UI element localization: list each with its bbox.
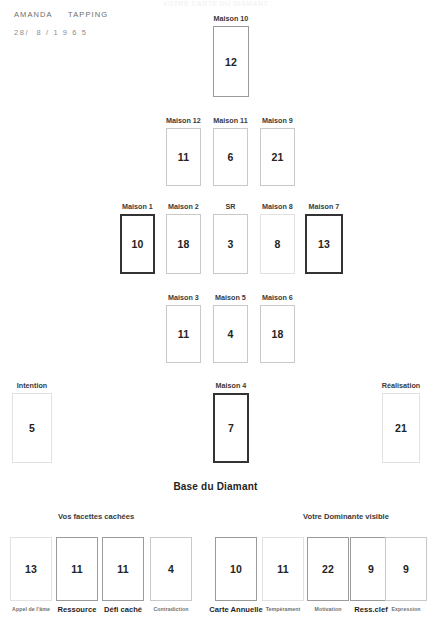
base-box-appel-de-l-ame[interactable]: 13: [10, 537, 52, 601]
card-box-maison-7[interactable]: 13: [305, 214, 343, 274]
card-slot-maison-11[interactable]: Maison 116: [213, 128, 248, 186]
card-slot-maison-4[interactable]: Maison 47: [213, 393, 249, 463]
card-slot-maison-5[interactable]: Maison 54: [213, 305, 248, 363]
card-box-maison-6[interactable]: 18: [260, 305, 295, 363]
base-slot-temperament[interactable]: 11Tempérament: [262, 537, 304, 601]
card-box-sr[interactable]: 3: [213, 214, 248, 274]
document-title: VOTRE CARTE DU DIAMANT: [0, 0, 431, 8]
card-label-maison-1: Maison 1: [122, 202, 153, 211]
card-label-maison-6: Maison 6: [262, 293, 293, 302]
card-value-maison-9: 21: [271, 151, 283, 163]
hidden-facets-heading: Vos facettes cachées: [58, 512, 134, 521]
card-value-maison-10: 12: [225, 56, 237, 68]
base-box-expression[interactable]: 9: [385, 537, 427, 601]
card-label-maison-3: Maison 3: [168, 293, 199, 302]
base-slot-contradiction[interactable]: 4Contradiction: [150, 537, 192, 601]
card-box-maison-5[interactable]: 4: [213, 305, 248, 363]
base-value-contradiction: 4: [168, 563, 174, 575]
card-label-maison-7: Maison 7: [309, 202, 340, 211]
base-du-diamant-title: Base du Diamant: [0, 481, 431, 492]
card-box-maison-12[interactable]: 11: [166, 128, 201, 186]
base-value-carte-annuelle: 10: [230, 563, 242, 575]
base-value-temperament: 11: [277, 563, 289, 575]
base-box-temperament[interactable]: 11: [262, 537, 304, 601]
card-value-maison-11: 6: [227, 151, 233, 163]
card-label-realisation: Réalisation: [382, 381, 420, 390]
card-value-maison-5: 4: [227, 328, 233, 340]
base-caption-contradiction: Contradiction: [153, 605, 188, 614]
card-value-maison-1: 10: [131, 238, 143, 250]
card-box-maison-3[interactable]: 11: [166, 305, 201, 363]
card-box-maison-2[interactable]: 18: [166, 214, 201, 274]
card-box-maison-4[interactable]: 7: [213, 393, 249, 463]
card-value-maison-6: 18: [271, 328, 283, 340]
base-value-defi-cache: 11: [117, 563, 129, 575]
card-value-maison-3: 11: [178, 328, 190, 340]
base-slot-defi-cache[interactable]: 11Défi caché: [102, 537, 144, 601]
card-slot-maison-2[interactable]: Maison 218: [166, 214, 201, 274]
base-slot-appel-de-l-ame[interactable]: 13Appel de l'âme: [10, 537, 52, 601]
card-label-intention: Intention: [17, 381, 47, 390]
card-value-maison-8: 8: [274, 238, 280, 250]
base-box-ressource[interactable]: 11: [56, 537, 98, 601]
card-slot-maison-1[interactable]: Maison 110: [120, 214, 155, 274]
base-slot-ressource[interactable]: 11Ressource: [56, 537, 98, 601]
base-caption-motivation: Motivation: [315, 605, 342, 614]
base-value-appel-de-l-ame: 13: [25, 563, 37, 575]
card-slot-maison-6[interactable]: Maison 618: [260, 305, 295, 363]
card-label-maison-11: Maison 11: [213, 116, 247, 125]
card-slot-maison-12[interactable]: Maison 1211: [166, 128, 201, 186]
base-box-motivation[interactable]: 22: [307, 537, 349, 601]
card-box-maison-8[interactable]: 8: [260, 214, 295, 274]
base-value-ress-clef: 9: [368, 563, 374, 575]
card-label-maison-12: Maison 12: [166, 116, 201, 125]
card-label-maison-4: Maison 4: [216, 381, 247, 390]
base-value-ressource: 11: [71, 563, 83, 575]
card-value-maison-12: 11: [178, 151, 190, 163]
base-slot-expression[interactable]: 9Expression: [385, 537, 427, 601]
card-slot-intention[interactable]: Intention5: [12, 393, 52, 463]
visible-dominance-heading: Votre Dominante visible: [303, 512, 389, 521]
card-label-maison-5: Maison 5: [215, 293, 246, 302]
card-value-intention: 5: [29, 422, 35, 434]
card-slot-maison-9[interactable]: Maison 921: [260, 128, 295, 186]
card-slot-maison-7[interactable]: Maison 713: [305, 214, 343, 274]
base-caption-appel-de-l-ame: Appel de l'âme: [12, 605, 50, 614]
card-value-maison-4: 7: [228, 422, 234, 434]
card-box-realisation[interactable]: 21: [382, 393, 420, 463]
card-box-intention[interactable]: 5: [12, 393, 52, 463]
card-slot-maison-3[interactable]: Maison 311: [166, 305, 201, 363]
card-label-maison-8: Maison 8: [262, 202, 293, 211]
card-box-maison-11[interactable]: 6: [213, 128, 248, 186]
card-box-maison-10[interactable]: 12: [213, 26, 249, 97]
card-slot-maison-8[interactable]: Maison 88: [260, 214, 295, 274]
base-value-expression: 9: [403, 563, 409, 575]
base-caption-temperament: Tempérament: [266, 605, 301, 614]
card-slot-sr[interactable]: SR3: [213, 214, 248, 274]
card-box-maison-1[interactable]: 10: [120, 214, 155, 274]
card-value-maison-7: 13: [318, 238, 330, 250]
base-caption-expression: Expression: [392, 605, 421, 614]
card-label-maison-10: Maison 10: [214, 14, 249, 23]
base-box-defi-cache[interactable]: 11: [102, 537, 144, 601]
card-label-maison-2: Maison 2: [168, 202, 199, 211]
card-label-sr: SR: [226, 202, 236, 211]
base-slot-motivation[interactable]: 22Motivation: [307, 537, 349, 601]
card-box-maison-9[interactable]: 21: [260, 128, 295, 186]
card-slot-maison-10[interactable]: Maison 1012: [213, 26, 249, 97]
card-value-maison-2: 18: [177, 238, 189, 250]
base-caption-ress-clef: Ress.clef: [354, 605, 387, 614]
person-name: AMANDA TAPPING: [14, 10, 108, 19]
base-box-contradiction[interactable]: 4: [150, 537, 192, 601]
card-label-maison-9: Maison 9: [262, 116, 293, 125]
card-value-sr: 3: [227, 238, 233, 250]
base-caption-ressource: Ressource: [58, 605, 97, 614]
base-box-carte-annuelle[interactable]: 10: [215, 537, 257, 601]
base-slot-carte-annuelle[interactable]: 10Carte Annuelle: [215, 537, 257, 601]
person-birthdate: 28/ 8 / 1 9 6 5: [14, 28, 88, 37]
base-caption-carte-annuelle: Carte Annuelle: [209, 605, 262, 614]
base-caption-defi-cache: Défi caché: [104, 605, 142, 614]
base-value-motivation: 22: [322, 563, 334, 575]
card-slot-realisation[interactable]: Réalisation21: [382, 393, 420, 463]
card-value-realisation: 21: [395, 422, 407, 434]
